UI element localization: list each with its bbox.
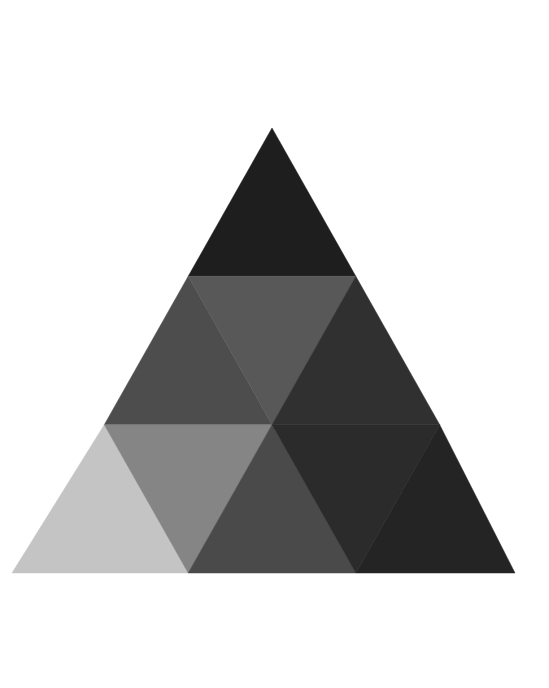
subdivided-triangle-figure (0, 0, 549, 688)
image-canvas (0, 0, 549, 688)
